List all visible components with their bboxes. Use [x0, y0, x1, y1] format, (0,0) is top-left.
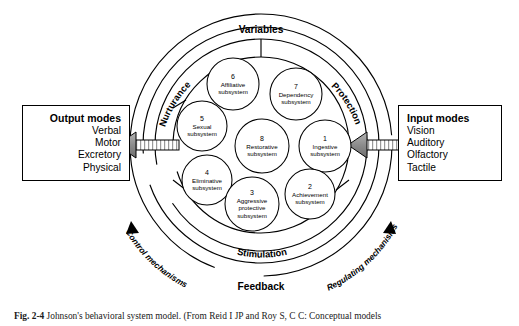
input-modes-title: Input modes: [407, 112, 493, 125]
subsystem-circle: [299, 120, 351, 172]
subsystem-circle: [270, 68, 322, 120]
ring-label-regulating-mechanisms: Regulating mechanisms: [325, 222, 400, 293]
subsystem-circle: [177, 101, 227, 151]
ring-label-variables: Variables: [239, 24, 284, 35]
input-mode-item: Vision: [407, 125, 493, 137]
output-mode-item: Verbal: [31, 125, 121, 137]
figure-caption-text: Johnson's behavioral system model. (From…: [47, 311, 382, 321]
output-mode-item: Motor: [31, 137, 121, 149]
output-mode-item: Excretory: [31, 149, 121, 161]
input-mode-item: Auditory: [407, 137, 493, 149]
ring-label-control-mechanisms: Control mechanisms: [124, 228, 190, 290]
output-modes-box: Output modes Verbal Motor Excretory Phys…: [22, 105, 130, 181]
figure-caption-label: Fig. 2-4: [14, 311, 44, 321]
figure-caption: Fig. 2-4 Johnson's behavioral system mod…: [14, 311, 510, 326]
input-mode-item: Tactile: [407, 162, 493, 174]
ring-label-protection: Protection: [330, 80, 365, 126]
subsystem-circle: [225, 177, 279, 231]
input-modes-box: Input modes Vision Auditory Olfactory Ta…: [398, 105, 502, 181]
figure-container: Nurturance Protection Stimulation Contro…: [0, 0, 519, 326]
output-modes-title: Output modes: [31, 112, 121, 125]
input-mode-item: Olfactory: [407, 149, 493, 161]
ring-label-feedback: Feedback: [238, 281, 285, 292]
output-mode-item: Physical: [31, 162, 121, 174]
subsystem-circle: [285, 169, 335, 219]
subsystem-circle: [182, 155, 232, 205]
subsystem-circle: [235, 119, 289, 173]
ring-label-stimulation: Stimulation: [236, 246, 288, 260]
subsystem-circle: [207, 58, 259, 110]
